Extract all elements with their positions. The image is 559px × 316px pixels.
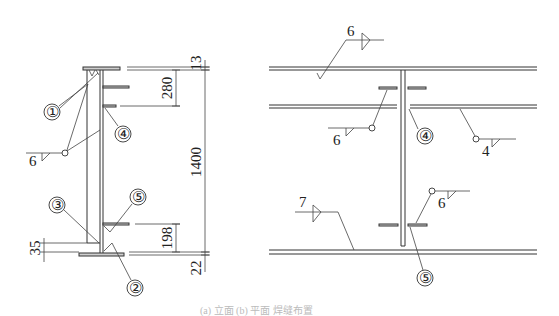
callout-2: ② xyxy=(129,280,142,296)
leader-mid-right xyxy=(460,109,475,136)
top-flange xyxy=(83,67,120,70)
dim-1400: 1400 xyxy=(188,147,204,177)
leader-bottom-left xyxy=(338,212,354,250)
weld-all-around-bottom xyxy=(429,188,435,194)
weld-size-bottom-right: 6 xyxy=(438,195,446,211)
leader-plan-5 xyxy=(410,227,423,270)
dim-22: 22 xyxy=(188,261,204,276)
right-plan-view: 6 6 ④ 4 6 7 ⑤ xyxy=(269,23,537,286)
leader-5b xyxy=(104,226,110,232)
dim-13: 13 xyxy=(188,56,204,71)
callout-1: ① xyxy=(46,104,59,120)
leader-top-tick xyxy=(317,73,320,79)
weld-size-bottom-left: 7 xyxy=(299,194,307,210)
weld-size-mid-left: 6 xyxy=(333,132,341,148)
fillet-icon-mid-right xyxy=(492,139,500,147)
dim-35: 35 xyxy=(27,241,43,256)
figure-caption: (a) 立面 (b) 平面 焊缝布置 xyxy=(200,304,313,316)
callout-3: ③ xyxy=(51,197,64,213)
weld-detail-drawing: 13 280 1400 198 22 35 ① 6 ④ ③ ⑤ xyxy=(0,0,559,316)
plan-stub-tl xyxy=(379,87,397,89)
weld-size-top: 6 xyxy=(347,23,355,39)
dim-280: 280 xyxy=(159,77,175,100)
leader-1b xyxy=(60,73,98,108)
leader-plan-4 xyxy=(409,109,418,129)
stiffener-stub-top-2 xyxy=(103,105,116,107)
plan-stub-br xyxy=(408,224,427,226)
stiffener-stub-top-1 xyxy=(103,86,129,88)
left-section-view: 13 280 1400 198 22 35 ① 6 ④ ③ ⑤ xyxy=(26,56,210,297)
weld-all-around-right xyxy=(473,136,479,142)
callout-4: ④ xyxy=(117,126,130,142)
fillet-icon-mid-left xyxy=(346,128,354,136)
leader-bottom-right xyxy=(416,194,431,223)
plan-stub-tr xyxy=(408,87,426,89)
fillet-both-icon-top xyxy=(362,33,370,50)
plan-callout-5: ⑤ xyxy=(419,270,432,286)
weld-all-around-mid xyxy=(369,125,375,131)
leader-5 xyxy=(110,204,132,232)
weld-size-mid-right: 4 xyxy=(482,143,490,159)
fillet-both-icon-bottom xyxy=(313,205,321,222)
fillet-weld-icon xyxy=(42,153,50,161)
dim-198: 198 xyxy=(159,227,175,250)
leader-2 xyxy=(112,243,131,280)
leader-top xyxy=(320,40,346,79)
leader-2b xyxy=(104,243,112,251)
weld-size-left: 6 xyxy=(29,153,37,169)
callout-5: ⑤ xyxy=(132,189,145,205)
leader-1a xyxy=(59,84,88,106)
fillet-icon-bottom-right xyxy=(448,191,456,199)
leader-4 xyxy=(105,108,118,126)
plan-callout-4: ④ xyxy=(419,128,432,144)
plan-stub-bl xyxy=(379,224,398,226)
leader-3 xyxy=(64,210,99,243)
